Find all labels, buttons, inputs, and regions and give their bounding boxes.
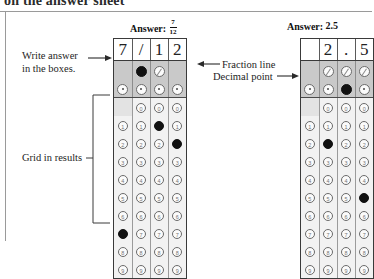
digit-cell[interactable]: 1 xyxy=(337,116,355,134)
digit-cell[interactable]: 4 xyxy=(319,170,337,188)
bubble-digit[interactable]: 1 xyxy=(136,121,146,131)
digit-cell[interactable]: 8 xyxy=(319,242,337,260)
digit-cell[interactable]: 6 xyxy=(355,206,373,224)
fraction-line-cell[interactable] xyxy=(132,61,150,80)
bubble-digit[interactable]: 7 xyxy=(305,229,315,239)
bubble-filled-digit[interactable]: 1 xyxy=(154,121,164,131)
bubble-digit[interactable]: 7 xyxy=(136,229,146,239)
bubble-digit[interactable]: 0 xyxy=(341,103,351,113)
bubble-digit[interactable]: 8 xyxy=(305,247,315,257)
bubble-digit[interactable]: 3 xyxy=(341,157,351,167)
bubble-digit[interactable]: 9 xyxy=(341,265,351,275)
digit-cell[interactable]: 5 xyxy=(114,188,132,206)
digit-cell[interactable]: 2 xyxy=(168,134,186,152)
digit-cell[interactable]: 4 xyxy=(355,170,373,188)
digit-cell[interactable]: 8 xyxy=(150,242,168,260)
bubble-digit[interactable]: 3 xyxy=(136,157,146,167)
digit-cell[interactable]: 5 xyxy=(355,188,373,206)
bubble-digit[interactable]: 2 xyxy=(136,139,146,149)
written-answer-cell[interactable] xyxy=(301,39,319,61)
fraction-line-cell[interactable] xyxy=(319,61,337,80)
digit-cell[interactable]: 3 xyxy=(132,152,150,170)
bubble-digit[interactable]: 6 xyxy=(323,211,333,221)
digit-cell[interactable]: 6 xyxy=(150,206,168,224)
digit-cell[interactable]: 9 xyxy=(114,260,132,278)
bubble-digit[interactable]: 3 xyxy=(118,157,128,167)
digit-cell[interactable]: 7 xyxy=(132,224,150,242)
digit-cell[interactable]: 8 xyxy=(355,242,373,260)
written-answer-cell[interactable]: 2 xyxy=(168,39,186,61)
digit-cell[interactable]: 9 xyxy=(355,260,373,278)
digit-cell[interactable]: 1 xyxy=(132,116,150,134)
bubble-digit[interactable]: 1 xyxy=(323,121,333,131)
bubble-digit[interactable]: 1 xyxy=(359,121,369,131)
digit-cell[interactable]: 5 xyxy=(301,188,319,206)
digit-cell[interactable]: 4 xyxy=(337,170,355,188)
decimal-point-cell[interactable] xyxy=(168,79,186,98)
digit-cell[interactable]: 3 xyxy=(168,152,186,170)
bubble-digit[interactable]: 9 xyxy=(359,265,369,275)
digit-cell[interactable]: 1 xyxy=(319,116,337,134)
bubble-dot[interactable] xyxy=(117,84,128,95)
bubble-slash[interactable] xyxy=(341,66,352,77)
digit-cell[interactable]: 3 xyxy=(150,152,168,170)
written-answer-cell[interactable]: . xyxy=(337,39,355,61)
bubble-filled-slash[interactable] xyxy=(136,66,147,77)
bubble-filled-digit[interactable]: 2 xyxy=(172,139,182,149)
bubble-digit[interactable]: 8 xyxy=(323,247,333,257)
bubble-digit[interactable]: 2 xyxy=(341,139,351,149)
digit-cell[interactable]: 4 xyxy=(150,170,168,188)
digit-cell[interactable]: 8 xyxy=(132,242,150,260)
bubble-dot[interactable] xyxy=(323,84,334,95)
digit-cell[interactable]: 7 xyxy=(355,224,373,242)
decimal-point-cell[interactable] xyxy=(114,79,132,98)
bubble-dot[interactable] xyxy=(172,84,183,95)
decimal-point-cell[interactable] xyxy=(319,79,337,98)
digit-cell[interactable]: 1 xyxy=(114,116,132,134)
bubble-filled-digit[interactable]: 5 xyxy=(359,193,369,203)
bubble-digit[interactable]: 6 xyxy=(172,211,182,221)
bubble-digit[interactable]: 1 xyxy=(118,121,128,131)
bubble-digit[interactable]: 0 xyxy=(154,103,164,113)
digit-cell[interactable]: 9 xyxy=(132,260,150,278)
digit-cell[interactable]: 8 xyxy=(114,242,132,260)
decimal-point-cell[interactable] xyxy=(355,79,373,98)
bubble-digit[interactable]: 4 xyxy=(359,175,369,185)
digit-cell[interactable]: 3 xyxy=(337,152,355,170)
bubble-digit[interactable]: 6 xyxy=(154,211,164,221)
digit-cell[interactable]: 7 xyxy=(337,224,355,242)
bubble-digit[interactable]: 9 xyxy=(172,265,182,275)
bubble-digit[interactable]: 4 xyxy=(154,175,164,185)
bubble-digit[interactable]: 6 xyxy=(305,211,315,221)
bubble-digit[interactable]: 5 xyxy=(118,193,128,203)
digit-cell[interactable]: 0 xyxy=(168,98,186,117)
written-answer-cell[interactable]: 7 xyxy=(114,39,132,61)
bubble-digit[interactable]: 7 xyxy=(323,229,333,239)
bubble-digit[interactable]: 4 xyxy=(341,175,351,185)
digit-cell[interactable]: 7 xyxy=(168,224,186,242)
digit-cell[interactable]: 8 xyxy=(337,242,355,260)
digit-cell[interactable]: 4 xyxy=(132,170,150,188)
digit-cell[interactable]: 2 xyxy=(319,134,337,152)
digit-cell[interactable]: 6 xyxy=(301,206,319,224)
bubble-digit[interactable]: 8 xyxy=(136,247,146,257)
digit-cell[interactable]: 3 xyxy=(114,152,132,170)
bubble-digit[interactable]: 3 xyxy=(305,157,315,167)
bubble-digit[interactable]: 4 xyxy=(172,175,182,185)
digit-cell[interactable]: 2 xyxy=(355,134,373,152)
bubble-digit[interactable]: 8 xyxy=(359,247,369,257)
digit-cell[interactable]: 7 xyxy=(150,224,168,242)
decimal-point-cell[interactable] xyxy=(132,79,150,98)
bubble-dot[interactable] xyxy=(359,84,370,95)
digit-cell[interactable]: 2 xyxy=(301,134,319,152)
bubble-digit[interactable]: 3 xyxy=(359,157,369,167)
decimal-point-cell[interactable] xyxy=(337,79,355,98)
bubble-digit[interactable]: 1 xyxy=(341,121,351,131)
bubble-digit[interactable]: 8 xyxy=(341,247,351,257)
digit-cell[interactable]: 7 xyxy=(301,224,319,242)
bubble-digit[interactable]: 2 xyxy=(359,139,369,149)
digit-cell[interactable]: 8 xyxy=(301,242,319,260)
digit-cell[interactable]: 3 xyxy=(319,152,337,170)
bubble-digit[interactable]: 2 xyxy=(118,139,128,149)
bubble-digit[interactable]: 1 xyxy=(172,121,182,131)
